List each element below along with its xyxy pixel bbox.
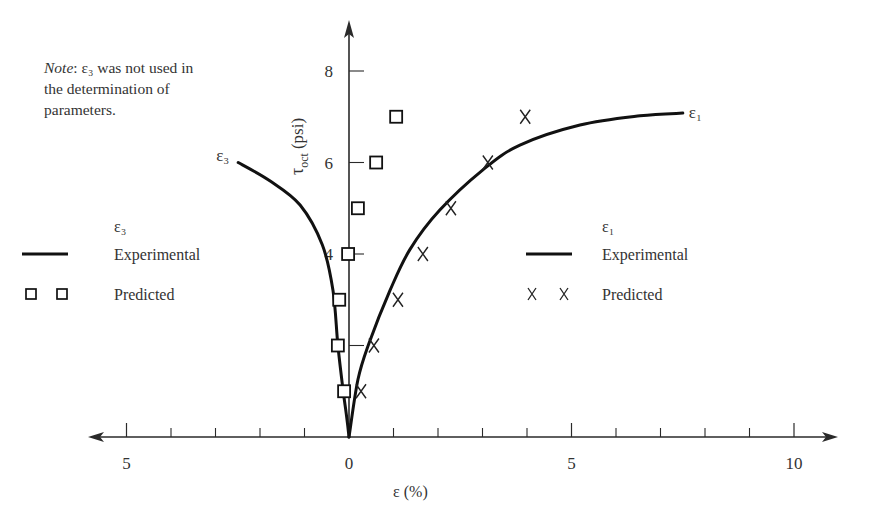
axes: 50510468 — [88, 20, 838, 473]
eps3-predicted-point — [333, 294, 345, 306]
y-axis-label: τoct(psi) — [287, 118, 311, 175]
eps1-curve-label: ε₁ — [689, 103, 702, 122]
eps1-experimental-curve — [349, 113, 683, 437]
eps1-predicted-point — [520, 110, 530, 124]
legend-x-symbol — [528, 288, 536, 300]
y-label-sub: oct — [297, 152, 311, 167]
legend-entry-label: Experimental — [602, 246, 689, 264]
eps3-predicted-point — [390, 111, 402, 123]
y-tick-label: 8 — [325, 62, 334, 81]
legend-entry-label: Experimental — [114, 246, 201, 264]
x-axis-label: ε (%) — [393, 483, 428, 501]
legend-entry-label: Predicted — [602, 286, 662, 303]
x-tick-label: 5 — [122, 454, 131, 473]
eps1-predicted-point — [418, 247, 428, 261]
eps3-curve-label: ε₃ — [216, 146, 229, 165]
eps3-predicted-point — [370, 157, 382, 169]
legend-heading: ε₁ — [602, 218, 614, 235]
y-label-unit: (psi) — [288, 118, 307, 149]
strain-stress-chart: 50510468 ε₃ε₁ ε₃ExperimentalPredictedε₁E… — [0, 0, 870, 526]
eps1-predicted-point — [446, 201, 456, 215]
svg-text:τoct(psi): τoct(psi) — [287, 118, 311, 175]
y-label-main: τ — [287, 168, 307, 175]
x-tick-label: 10 — [786, 454, 803, 473]
eps3-predicted-point — [342, 248, 354, 260]
legend-square-symbol — [26, 289, 36, 299]
legend-heading: ε₃ — [114, 218, 126, 235]
eps1-predicted-point — [393, 293, 403, 307]
y-tick-label: 6 — [325, 154, 334, 173]
legend-x-symbol — [560, 288, 568, 300]
legend-square-symbol — [57, 289, 67, 299]
eps3-predicted-point — [352, 202, 364, 214]
legend-eps1: ε₁ExperimentalPredicted — [526, 218, 689, 303]
eps1-predicted-point — [369, 339, 379, 353]
series-layer: ε₃ε₁ — [216, 103, 702, 437]
legend-eps3: ε₃ExperimentalPredicted — [22, 218, 201, 303]
eps3-predicted-point — [338, 385, 350, 397]
legend-entry-label: Predicted — [114, 286, 174, 303]
x-tick-label: 5 — [567, 454, 576, 473]
x-tick-label: 0 — [345, 454, 354, 473]
legends: ε₃ExperimentalPredictedε₁ExperimentalPre… — [22, 218, 689, 303]
eps1-predicted-point — [356, 384, 366, 398]
eps3-predicted-point — [332, 340, 344, 352]
